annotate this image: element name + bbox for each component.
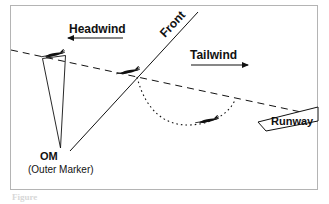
outer-marker-abbrev-label: OM	[40, 150, 58, 162]
front-label: Front	[157, 8, 188, 40]
glide-path-dashed-line	[11, 50, 301, 112]
tailwind-label: Tailwind	[190, 48, 237, 62]
figure-caption: Figure	[12, 192, 322, 202]
aircraft-at-front	[116, 66, 141, 75]
figure-caption-number: Figure	[12, 192, 37, 202]
outer-marker-cone	[43, 56, 66, 149]
sink-below-glidepath-dotted-curve	[137, 77, 235, 125]
figure-container: Headwind Tailwind Front OM (Outer Marker…	[0, 0, 329, 204]
runway-label: Runway	[271, 115, 314, 127]
outer-marker-full-label: (Outer Marker)	[28, 164, 94, 175]
aircraft-tailwind-low	[195, 115, 220, 124]
headwind-label: Headwind	[69, 22, 126, 36]
aircraft-headwind-outer	[41, 49, 66, 58]
approach-wind-shear-diagram: Headwind Tailwind Front OM (Outer Marker…	[0, 0, 329, 204]
